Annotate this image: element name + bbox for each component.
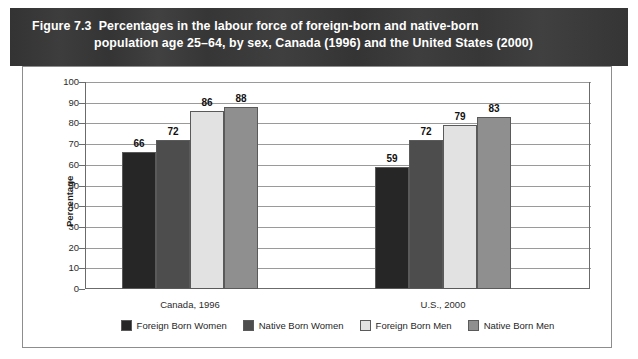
bar-value-label: 83 <box>477 103 511 114</box>
bar <box>375 167 409 289</box>
figure-container: Figure 7.3 Percentages in the labour for… <box>0 0 638 359</box>
legend-label: Native Born Men <box>484 320 555 331</box>
bar-value-label: 86 <box>190 97 224 108</box>
bar-value-label: 88 <box>224 93 258 104</box>
y-axis-tick-label: 80 <box>49 117 79 128</box>
y-axis-tick-label: 40 <box>49 200 79 211</box>
bar-value-label: 72 <box>409 126 443 137</box>
y-axis-ticks: 0102030405060708090100 <box>46 82 79 289</box>
gridline <box>86 289 591 290</box>
bar <box>477 117 511 289</box>
legend-label: Foreign Born Men <box>376 320 452 331</box>
y-axis-tick-label: 20 <box>49 242 79 253</box>
legend-swatch <box>468 320 479 331</box>
bar <box>156 140 190 289</box>
bar <box>190 111 224 289</box>
legend-label: Native Born Women <box>259 320 344 331</box>
legend-item: Native Born Women <box>243 320 344 331</box>
legend-swatch <box>243 320 254 331</box>
y-axis-tick-label: 30 <box>49 221 79 232</box>
bar <box>443 125 477 289</box>
y-axis-tick-label: 70 <box>49 138 79 149</box>
legend-item: Native Born Men <box>468 320 555 331</box>
y-axis-tick-label: 10 <box>49 262 79 273</box>
bar <box>409 140 443 289</box>
bar <box>122 152 156 289</box>
y-axis-tick-label: 60 <box>49 159 79 170</box>
x-axis-group-label: U.S., 2000 <box>375 299 511 310</box>
bars-layer: 6672868859727983 <box>85 82 590 289</box>
bar-value-label: 72 <box>156 126 190 137</box>
legend-swatch <box>121 320 132 331</box>
bar <box>224 107 258 289</box>
y-axis-tick-mark <box>79 289 85 290</box>
chart: Percentage 0102030405060708090100 667286… <box>0 0 638 359</box>
legend-item: Foreign Born Women <box>121 320 227 331</box>
bar-value-label: 66 <box>122 138 156 149</box>
y-axis-tick-label: 50 <box>49 180 79 191</box>
y-axis-tick-label: 0 <box>49 283 79 294</box>
bar-value-label: 79 <box>443 111 477 122</box>
legend-swatch <box>360 320 371 331</box>
bar-value-label: 59 <box>375 153 409 164</box>
x-axis-group-label: Canada, 1996 <box>122 299 258 310</box>
legend-label: Foreign Born Women <box>137 320 227 331</box>
y-axis-tick-label: 90 <box>49 97 79 108</box>
y-axis-tick-label: 100 <box>49 76 79 87</box>
legend-item: Foreign Born Men <box>360 320 452 331</box>
chart-legend: Foreign Born WomenNative Born WomenForei… <box>85 320 590 331</box>
